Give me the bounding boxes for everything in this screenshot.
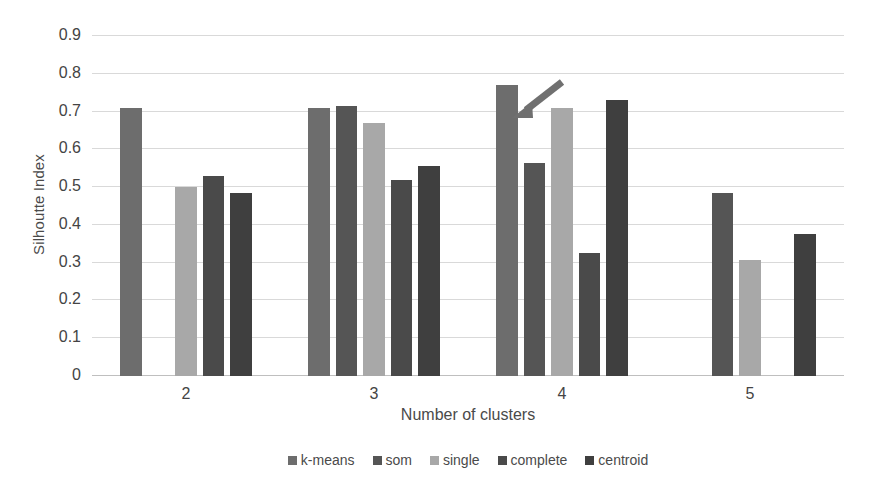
bar-single-4[interactable] (551, 108, 572, 376)
legend-item-som[interactable]: som (373, 452, 412, 468)
bar-complete-4[interactable] (579, 253, 600, 376)
bar-slot (333, 36, 360, 376)
bar-k-means-3[interactable] (308, 108, 329, 376)
chart-legend: k-meanssomsinglecompletecentroid (92, 452, 844, 468)
legend-label: single (443, 452, 480, 468)
legend-swatch-icon (498, 456, 507, 465)
y-tick-label: 0.8 (59, 64, 81, 82)
bar-slot (172, 36, 199, 376)
bar-slot (388, 36, 415, 376)
bar-slot (548, 36, 575, 376)
bar-single-2[interactable] (175, 187, 196, 376)
y-tick-label: 0.1 (59, 328, 81, 346)
bar-centroid-4[interactable] (606, 100, 627, 376)
y-tick-label: 0 (72, 366, 81, 384)
bar-complete-3[interactable] (391, 180, 412, 376)
legend-swatch-icon (373, 456, 382, 465)
x-tick-label: 3 (280, 385, 468, 403)
bar-slot (791, 36, 818, 376)
legend-swatch-icon (430, 456, 439, 465)
legend-label: complete (511, 452, 568, 468)
legend-item-single[interactable]: single (430, 452, 480, 468)
bar-som-5[interactable] (712, 193, 733, 376)
bar-som-3[interactable] (336, 106, 357, 376)
y-tick-label: 0.7 (59, 102, 81, 120)
legend-label: som (386, 452, 412, 468)
bar-group: 2 (92, 36, 280, 376)
x-tick-label: 4 (468, 385, 656, 403)
bar-slot (521, 36, 548, 376)
y-tick-label: 0.9 (59, 26, 81, 44)
plot-area: 00.10.20.30.40.50.60.70.80.92345 (92, 36, 844, 376)
bar-slot (736, 36, 763, 376)
bar-single-5[interactable] (739, 260, 760, 376)
y-tick-label: 0.4 (59, 215, 81, 233)
x-tick-label: 5 (656, 385, 844, 403)
y-tick-label: 0.5 (59, 177, 81, 195)
legend-swatch-icon (585, 456, 594, 465)
bar-group: 3 (280, 36, 468, 376)
legend-label: centroid (598, 452, 648, 468)
bar-slot (764, 36, 791, 376)
silhouette-index-bar-chart: Silhoutte Index 00.10.20.30.40.50.60.70.… (0, 0, 873, 498)
bar-som-4[interactable] (524, 163, 545, 376)
bar-slot (415, 36, 442, 376)
bar-centroid-5[interactable] (794, 234, 815, 376)
bar-slot (681, 36, 708, 376)
bar-k-means-2[interactable] (120, 108, 141, 376)
bar-slot (227, 36, 254, 376)
legend-item-centroid[interactable]: centroid (585, 452, 648, 468)
bar-single-3[interactable] (363, 123, 384, 376)
y-tick-label: 0.2 (59, 290, 81, 308)
bar-centroid-3[interactable] (418, 166, 439, 376)
bar-slot (493, 36, 520, 376)
bar-slot (117, 36, 144, 376)
bar-slot (145, 36, 172, 376)
bar-slot (305, 36, 332, 376)
x-tick-label: 2 (92, 385, 280, 403)
legend-item-k-means[interactable]: k-means (288, 452, 355, 468)
legend-label: k-means (301, 452, 355, 468)
bar-complete-2[interactable] (203, 176, 224, 376)
y-axis-title: Silhoutte Index (30, 95, 47, 315)
legend-item-complete[interactable]: complete (498, 452, 568, 468)
bar-slot (709, 36, 736, 376)
x-axis-title: Number of clusters (92, 406, 844, 424)
bar-slot (200, 36, 227, 376)
bar-group: 5 (656, 36, 844, 376)
bar-k-means-4[interactable] (496, 85, 517, 376)
bar-group: 4 (468, 36, 656, 376)
bar-slot (603, 36, 630, 376)
legend-swatch-icon (288, 456, 297, 465)
bar-centroid-2[interactable] (230, 193, 251, 376)
bar-slot (360, 36, 387, 376)
y-tick-label: 0.6 (59, 139, 81, 157)
y-tick-label: 0.3 (59, 253, 81, 271)
bar-slot (576, 36, 603, 376)
